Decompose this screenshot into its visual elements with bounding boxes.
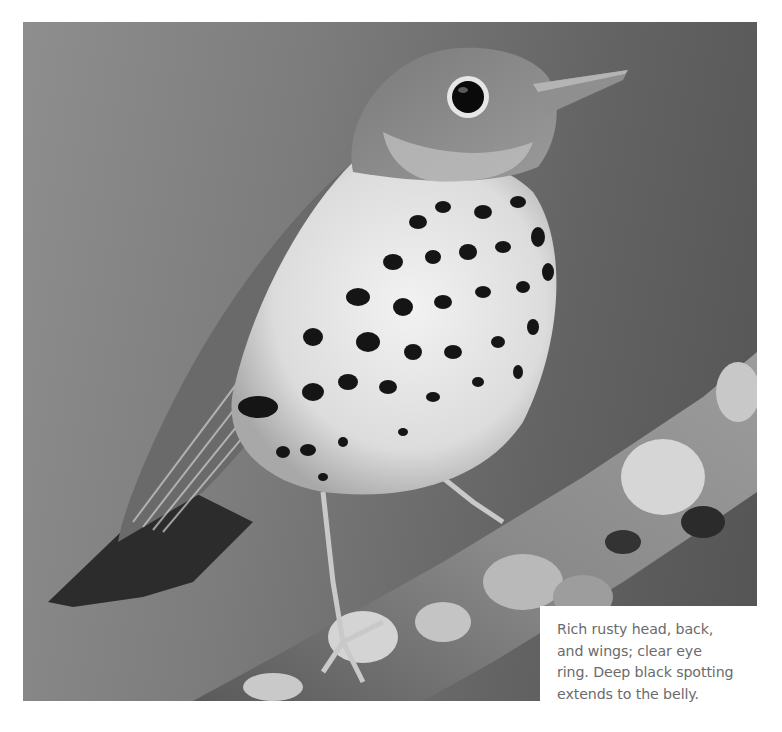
wood-thrush-illustration	[23, 22, 757, 701]
caption-box: Rich rusty head, back, and wings; clear …	[540, 606, 782, 732]
eye	[452, 81, 484, 113]
bird-photo	[23, 22, 757, 701]
eye-highlight	[458, 87, 468, 93]
caption-text: Rich rusty head, back, and wings; clear …	[557, 619, 782, 705]
breast	[231, 152, 556, 494]
